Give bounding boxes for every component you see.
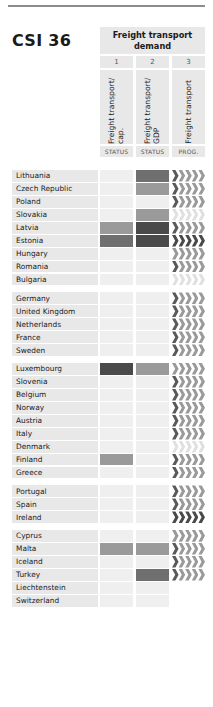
- table-row[interactable]: Latvia: [0, 222, 213, 234]
- country-name: Sweden: [12, 344, 98, 356]
- table-row[interactable]: Romania: [0, 261, 213, 273]
- table-row[interactable]: Estonia: [0, 235, 213, 247]
- table-row[interactable]: Ireland: [0, 511, 213, 523]
- table-row[interactable]: Malta: [0, 543, 213, 555]
- table-row[interactable]: Slovenia: [0, 376, 213, 388]
- country-name: Liechtenstein: [12, 582, 98, 594]
- table-row[interactable]: Luxembourg: [0, 363, 213, 375]
- column-number-3: 3: [172, 56, 205, 68]
- table-row[interactable]: Czech Republic: [0, 183, 213, 195]
- chevron-arrows-icon: [172, 363, 205, 375]
- country-name: Romania: [12, 261, 98, 273]
- progress-cell: [172, 292, 205, 304]
- chevron-arrows-icon: [172, 467, 205, 479]
- progress-cell: [172, 454, 205, 466]
- status-cell-2: [136, 428, 169, 440]
- table-row[interactable]: Norway: [0, 402, 213, 414]
- table-row[interactable]: Belgium: [0, 389, 213, 401]
- status-cell-1: [100, 183, 133, 195]
- status-cell-2: [136, 183, 169, 195]
- country-name: Spain: [12, 498, 98, 510]
- table-row[interactable]: Poland: [0, 196, 213, 208]
- status-cell-2: [136, 292, 169, 304]
- table-row[interactable]: Turkey: [0, 569, 213, 581]
- status-cell-1: [100, 363, 133, 375]
- status-cell-2: [136, 331, 169, 343]
- status-cell-2: [136, 595, 169, 607]
- progress-cell: [172, 556, 205, 568]
- table-row[interactable]: Spain: [0, 498, 213, 510]
- status-cell-1: [100, 222, 133, 234]
- column-label-cell-3: Freight transport: [172, 70, 205, 144]
- status-cell-1: [100, 441, 133, 453]
- status-cell-2: [136, 389, 169, 401]
- status-cell-1: [100, 376, 133, 388]
- progress-cell: [172, 222, 205, 234]
- column-number-2: 2: [136, 56, 169, 68]
- status-cell-2: [136, 511, 169, 523]
- status-cell-2: [136, 485, 169, 497]
- table-row[interactable]: Sweden: [0, 344, 213, 356]
- table-row[interactable]: Slovakia: [0, 209, 213, 221]
- progress-cell: [172, 530, 205, 542]
- table-row[interactable]: Hungary: [0, 248, 213, 260]
- status-cell-2: [136, 441, 169, 453]
- chevron-arrows-icon: [172, 248, 205, 260]
- status-cell-1: [100, 556, 133, 568]
- chevron-arrows-icon: [172, 511, 205, 523]
- progress-cell: [172, 344, 205, 356]
- table-header: CSI 36 Freight transport demand 1 2 3 Fr…: [0, 24, 213, 154]
- table-row[interactable]: France: [0, 331, 213, 343]
- column-type-row: STATUS STATUS PROG.: [100, 146, 205, 157]
- progress-cell: [172, 467, 205, 479]
- progress-cell: [172, 305, 205, 317]
- table-row[interactable]: Finland: [0, 454, 213, 466]
- table-row[interactable]: Liechtenstein: [0, 582, 213, 594]
- table-row[interactable]: Denmark: [0, 441, 213, 453]
- status-cell-1: [100, 274, 133, 286]
- status-cell-2: [136, 222, 169, 234]
- chevron-arrows-icon: [172, 344, 205, 356]
- status-cell-2: [136, 556, 169, 568]
- status-cell-1: [100, 209, 133, 221]
- table-row[interactable]: Austria: [0, 415, 213, 427]
- status-cell-1: [100, 530, 133, 542]
- table-row[interactable]: Switzerland: [0, 595, 213, 607]
- country-name: Switzerland: [12, 595, 98, 607]
- progress-cell: [172, 209, 205, 221]
- table-row[interactable]: Greece: [0, 467, 213, 479]
- status-cell-1: [100, 389, 133, 401]
- country-name: Slovenia: [12, 376, 98, 388]
- chevron-arrows-icon: [172, 305, 205, 317]
- chevron-arrows-icon: [172, 569, 205, 581]
- table-row[interactable]: Italy: [0, 428, 213, 440]
- chevron-arrows-icon: [172, 318, 205, 330]
- column-type-2: STATUS: [136, 146, 169, 157]
- progress-cell: [172, 485, 205, 497]
- table-row[interactable]: Lithuania: [0, 170, 213, 182]
- country-name: Czech Republic: [12, 183, 98, 195]
- status-cell-2: [136, 305, 169, 317]
- top-divider: [8, 5, 205, 7]
- table-row[interactable]: Netherlands: [0, 318, 213, 330]
- country-name: Malta: [12, 543, 98, 555]
- table-row[interactable]: Germany: [0, 292, 213, 304]
- status-cell-1: [100, 318, 133, 330]
- country-name: Greece: [12, 467, 98, 479]
- status-cell-2: [136, 344, 169, 356]
- country-name: Netherlands: [12, 318, 98, 330]
- progress-cell: [172, 331, 205, 343]
- progress-cell: [172, 569, 205, 581]
- table-row[interactable]: United Kingdom: [0, 305, 213, 317]
- chevron-arrows-icon: [172, 485, 205, 497]
- table-row[interactable]: Bulgaria: [0, 274, 213, 286]
- country-group: LuxembourgSloveniaBelgiumNorwayAustriaIt…: [0, 363, 213, 478]
- status-cell-2: [136, 582, 169, 594]
- country-rows: LithuaniaCzech RepublicPolandSlovakiaLat…: [0, 170, 213, 614]
- table-row[interactable]: Iceland: [0, 556, 213, 568]
- status-cell-1: [100, 305, 133, 317]
- table-row[interactable]: Cyprus: [0, 530, 213, 542]
- status-cell-2: [136, 543, 169, 555]
- table-row[interactable]: Portugal: [0, 485, 213, 497]
- country-name: Austria: [12, 415, 98, 427]
